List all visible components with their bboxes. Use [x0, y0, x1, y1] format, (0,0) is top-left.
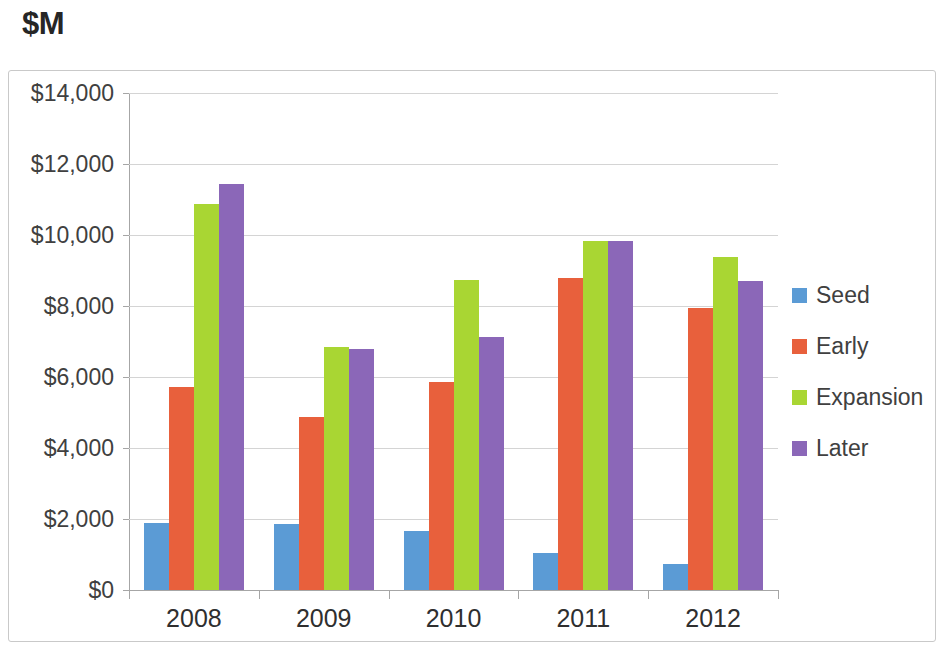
x-axis-tick [778, 590, 779, 599]
bar-early-2008 [169, 387, 194, 590]
bar-expansion-2010 [454, 280, 479, 590]
legend-item-seed[interactable]: Seed [792, 270, 923, 321]
legend-item-early[interactable]: Early [792, 321, 923, 372]
legend-item-label: Early [816, 335, 868, 358]
bar-seed-2010 [404, 531, 429, 590]
bar-expansion-2012 [713, 257, 738, 590]
x-axis-tick-label: 2012 [648, 604, 778, 633]
y-axis-tick-label: $4,000 [0, 435, 114, 462]
bar-expansion-2008 [194, 204, 219, 590]
x-axis-tick [389, 590, 390, 599]
x-axis-tick-label: 2008 [129, 604, 259, 633]
x-axis-tick [518, 590, 519, 599]
legend-item-label: Expansion [816, 386, 923, 409]
y-axis-tick-label: $0 [0, 577, 114, 604]
bar-later-2011 [608, 241, 633, 590]
x-axis-tick [259, 590, 260, 599]
bar-expansion-2011 [583, 241, 608, 590]
x-axis-tick-label: 2010 [389, 604, 519, 633]
y-axis-tick-label: $14,000 [0, 80, 114, 107]
bar-early-2009 [299, 417, 324, 590]
legend-item-label: Later [816, 437, 868, 460]
x-axis-tick-label: 2011 [518, 604, 648, 633]
y-axis-tick-label: $10,000 [0, 222, 114, 249]
y-axis-tick-label: $12,000 [0, 151, 114, 178]
bar-early-2012 [688, 308, 713, 590]
x-axis-tick [129, 590, 130, 599]
legend-swatch-icon [792, 339, 807, 354]
legend-swatch-icon [792, 288, 807, 303]
legend-item-expansion[interactable]: Expansion [792, 372, 923, 423]
bar-expansion-2009 [324, 347, 349, 590]
bar-seed-2011 [533, 553, 558, 590]
bar-seed-2009 [274, 524, 299, 590]
bar-early-2011 [558, 278, 583, 590]
bar-seed-2012 [663, 564, 688, 590]
gridline [129, 590, 778, 591]
legend-swatch-icon [792, 390, 807, 405]
bar-later-2009 [349, 349, 374, 590]
y-axis-tick-label: $8,000 [0, 293, 114, 320]
bar-seed-2008 [144, 523, 169, 590]
x-axis-tick [648, 590, 649, 599]
legend-item-later[interactable]: Later [792, 423, 923, 474]
bar-later-2008 [219, 184, 244, 590]
bars-container [129, 93, 778, 590]
chart-legend: SeedEarlyExpansionLater [792, 270, 923, 474]
x-axis-tick-label: 2009 [259, 604, 389, 633]
legend-swatch-icon [792, 441, 807, 456]
bar-later-2012 [738, 281, 763, 590]
bar-later-2010 [479, 337, 504, 590]
y-axis-tick-label: $2,000 [0, 506, 114, 533]
y-axis-tick-label: $6,000 [0, 364, 114, 391]
legend-item-label: Seed [816, 284, 870, 307]
bar-early-2010 [429, 382, 454, 590]
